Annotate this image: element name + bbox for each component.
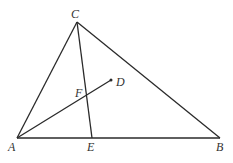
label-a: A <box>7 140 16 154</box>
segment-bc <box>77 22 220 138</box>
label-c: C <box>71 7 80 21</box>
label-b: B <box>216 140 224 154</box>
segment-ce <box>77 22 92 138</box>
label-f: F <box>74 86 83 100</box>
segment-ca <box>17 22 77 138</box>
label-e: E <box>86 140 95 154</box>
triangle-diagram: A B C D E F <box>0 0 233 163</box>
label-d: D <box>115 75 125 89</box>
point-d-dot <box>110 79 113 82</box>
segment-ad <box>17 80 111 138</box>
